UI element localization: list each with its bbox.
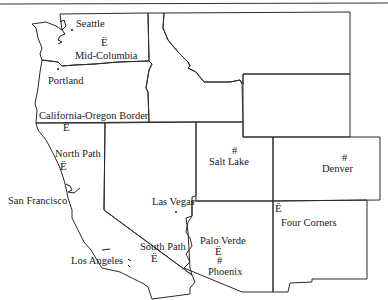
city-marker-denver: # (342, 152, 348, 163)
hub-label-mid-columbia: Mid-Columbia (75, 50, 138, 61)
city-label-san-francisco: San Francisco (8, 195, 67, 206)
hub-label-cob: California-Oregon Border (39, 110, 149, 121)
hub-marker-palo-verde: Ë (215, 245, 222, 257)
hub-marker-four-corners: Ë (275, 202, 282, 214)
city-label-phoenix: Phoenix (208, 266, 243, 277)
hub-label-four-corners: Four Corners (281, 217, 337, 228)
sf-bay (66, 184, 80, 193)
state-montana (163, 12, 350, 84)
hub-marker-north-path: Ë (60, 160, 67, 172)
city-label-portland: Portland (48, 75, 84, 86)
city-label-salt-lake: Salt Lake (209, 156, 249, 167)
hub-marker-south-path: Ë (151, 252, 158, 264)
city-label-las-vegas: Las Vegas (152, 196, 195, 207)
hub-marker-cob: Ë (63, 121, 70, 133)
city-dot-seattle (71, 29, 73, 31)
city-label-denver: Denver (322, 163, 353, 174)
top-rule (0, 3, 388, 4)
city-label-seattle: Seattle (76, 18, 105, 29)
state-new-mexico (273, 200, 367, 292)
puget-sound (58, 20, 66, 44)
western-us-map: # # # Ë Ë Ë Ë Ë Ë Seattle Portland San F… (0, 0, 388, 300)
state-wyoming (243, 74, 350, 137)
state-idaho (146, 13, 243, 122)
hub-label-palo-verde: Palo Verde (200, 235, 246, 246)
state-arizona (184, 201, 273, 292)
city-marker-salt-lake: # (232, 145, 238, 156)
city-label-los-angeles: Los Angeles (71, 255, 123, 266)
hub-label-south-path: South Path (140, 241, 187, 252)
hub-marker-mid-columbia: Ë (101, 36, 108, 48)
hub-label-north-path: North Path (55, 148, 102, 159)
city-dot-las-vegas (175, 211, 177, 213)
city-dot-portland (57, 68, 59, 70)
